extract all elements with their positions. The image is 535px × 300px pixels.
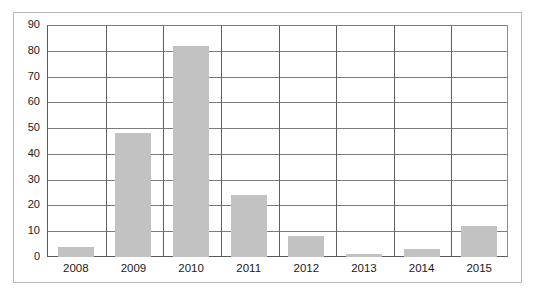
x-axis-tick-label: 2013	[335, 262, 393, 275]
y-axis-tick-label: 20	[0, 199, 40, 210]
y-axis-tick-label: 30	[0, 174, 40, 185]
bar-slot	[393, 25, 451, 257]
y-axis-tick-label: 10	[0, 225, 40, 236]
bar	[173, 46, 209, 257]
bar-slot	[220, 25, 278, 257]
bar-slot	[335, 25, 393, 257]
bar-slot	[278, 25, 336, 257]
y-axis-tick-label: 0	[0, 251, 40, 262]
bar	[58, 247, 94, 257]
x-axis-tick-label: 2015	[450, 262, 508, 275]
y-axis-tick-label: 50	[0, 122, 40, 133]
x-axis-tick-label: 2008	[47, 262, 105, 275]
bar	[115, 133, 151, 257]
x-axis-tick-label: 2011	[220, 262, 278, 275]
chart-figure: 0102030405060708090 20082009201020112012…	[0, 0, 535, 300]
bar-slot	[450, 25, 508, 257]
x-axis-tick-label: 2012	[278, 262, 336, 275]
bar-slot	[105, 25, 163, 257]
bars-layer	[47, 25, 508, 257]
y-axis-tick-label: 40	[0, 148, 40, 159]
y-axis-tick-label: 90	[0, 19, 40, 30]
x-axis-tick-label: 2009	[105, 262, 163, 275]
y-axis-tick-label: 60	[0, 96, 40, 107]
bar	[461, 226, 497, 257]
bar	[231, 195, 267, 257]
bar	[404, 249, 440, 257]
bar	[288, 236, 324, 257]
y-axis-tick-label: 80	[0, 45, 40, 56]
bar	[346, 254, 382, 257]
bar-slot	[162, 25, 220, 257]
y-axis-tick-label: 70	[0, 71, 40, 82]
bar-slot	[47, 25, 105, 257]
x-axis-tick-label: 2014	[393, 262, 451, 275]
x-axis-tick-label: 2010	[162, 262, 220, 275]
